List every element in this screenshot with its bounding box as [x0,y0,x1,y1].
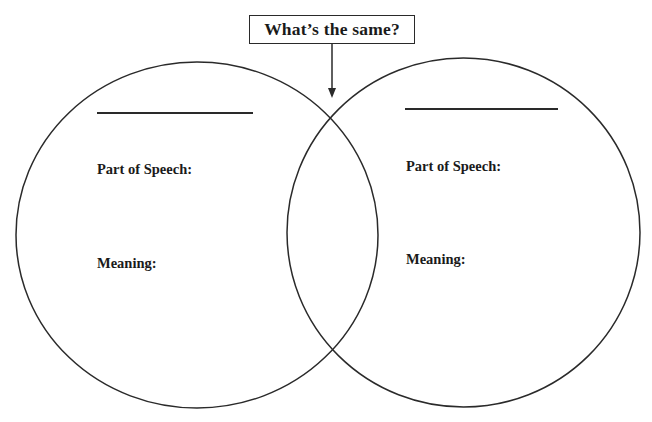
venn-diagram: What’s the same? Part of Speech: Meaning… [0,0,652,422]
title-text: What’s the same? [264,19,400,40]
venn-diagram-shapes [0,0,652,422]
right-meaning-label: Meaning: [406,252,466,267]
arrow-down-icon [328,88,336,98]
left-word-blank[interactable] [97,112,253,114]
right-part-of-speech-label: Part of Speech: [406,159,501,174]
title-box: What’s the same? [249,15,415,44]
left-meaning-label: Meaning: [97,256,157,271]
right-circle [287,58,640,407]
left-part-of-speech-label: Part of Speech: [97,162,192,177]
right-word-blank[interactable] [405,108,558,110]
